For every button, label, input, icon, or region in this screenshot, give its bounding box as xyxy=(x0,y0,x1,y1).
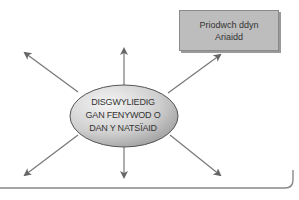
arrow-up-left xyxy=(25,53,78,92)
center-label: DISGWYLIEDIG GAN FENYWOD O DAN Y NATSÏAI… xyxy=(70,92,176,138)
arrow-down-left xyxy=(25,135,78,175)
center-line-2: GAN FENYWOD O xyxy=(86,109,161,122)
center-line-1: DISGWYLIEDIG xyxy=(91,96,155,109)
arrow-up-right xyxy=(168,55,220,93)
frame-border xyxy=(0,170,293,188)
center-line-3: DAN Y NATSÏAID xyxy=(89,122,157,135)
arrow-down-right xyxy=(170,135,220,175)
topic-box-aryan-marriage: Priodwch ddyn Ariaidd xyxy=(179,10,279,51)
box-line-2: Ariaidd xyxy=(215,31,243,43)
box-line-1: Priodwch ddyn xyxy=(199,19,258,31)
